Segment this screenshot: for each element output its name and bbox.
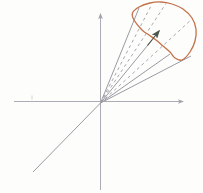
cone-over-region-figure xyxy=(0,0,203,193)
figure-background xyxy=(0,0,203,193)
diagram-svg xyxy=(0,0,203,193)
